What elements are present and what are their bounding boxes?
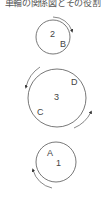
point-label: B xyxy=(60,39,66,49)
wheel-1: A 1 xyxy=(33,142,76,188)
gear-diagram: 2 B 3 D C A 1 xyxy=(0,0,105,197)
wheel-3: 3 D C xyxy=(26,67,91,128)
wheel-number: 2 xyxy=(50,29,55,39)
rotation-arrow-icon xyxy=(53,17,72,31)
rotation-arrow-icon xyxy=(26,67,40,87)
wheel-2: 2 B xyxy=(36,17,72,54)
rotation-arrow-icon xyxy=(33,170,52,188)
point-label: C xyxy=(37,107,44,117)
point-label: A xyxy=(47,148,53,158)
point-label: D xyxy=(71,77,78,87)
rotation-arrow-icon xyxy=(74,112,91,128)
wheel-number: 1 xyxy=(56,158,61,168)
wheel-number: 3 xyxy=(54,92,59,102)
